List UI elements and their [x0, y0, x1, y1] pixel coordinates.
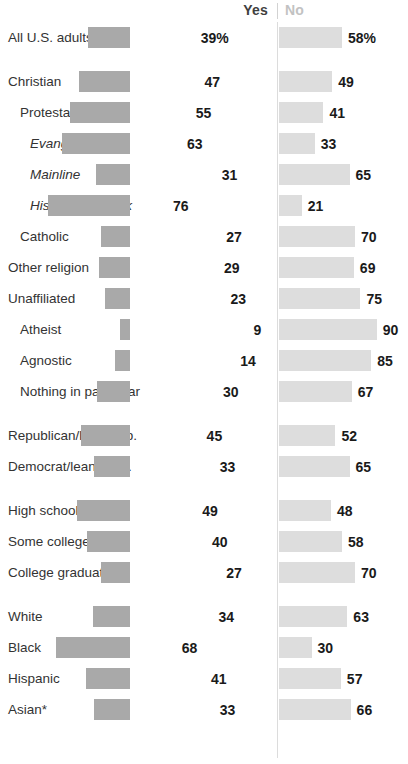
bar-no [279, 319, 377, 340]
row-label: Atheist [20, 323, 61, 337]
value-no: 90 [383, 323, 399, 337]
value-no: 48 [337, 504, 353, 518]
value-yes: 33 [220, 703, 236, 717]
table-row: Evangelical6333 [0, 133, 408, 154]
bar-no [279, 606, 347, 627]
row-label: Agnostic [20, 354, 72, 368]
chart-legend-header: Yes No [0, 0, 408, 22]
bar-yes [81, 425, 130, 446]
value-yes: 39% [201, 31, 229, 45]
bar-no [279, 195, 302, 216]
table-row: Protestant5541 [0, 102, 408, 123]
row-label: College graduate [8, 566, 111, 580]
table-row: Asian*3366 [0, 699, 408, 720]
bar-no [279, 425, 335, 446]
table-row: Christian4749 [0, 71, 408, 92]
legend-label-yes: Yes [243, 2, 268, 18]
row-label: Other religion [8, 261, 89, 275]
table-row: Atheist990 [0, 319, 408, 340]
table-row: College graduate2770 [0, 562, 408, 583]
value-yes: 55 [196, 106, 212, 120]
bar-yes [105, 288, 130, 309]
bar-yes [48, 195, 130, 216]
value-yes: 40 [212, 535, 228, 549]
value-no: 66 [357, 703, 373, 717]
value-no: 41 [329, 106, 345, 120]
value-no: 69 [360, 261, 376, 275]
bar-no [279, 531, 342, 552]
bar-yes [62, 133, 130, 154]
table-row: Agnostic1485 [0, 350, 408, 371]
bar-yes [96, 164, 130, 185]
legend-label-no: No [285, 2, 304, 18]
value-no: 58 [348, 535, 364, 549]
table-row: Republican/lean Rep.4552 [0, 425, 408, 446]
bar-no [279, 350, 371, 371]
bar-yes [86, 668, 130, 689]
bar-no [279, 257, 354, 278]
value-yes: 31 [222, 168, 238, 182]
value-no: 70 [361, 230, 377, 244]
row-label: Black [8, 641, 41, 655]
value-yes: 9 [253, 323, 261, 337]
value-yes: 14 [240, 354, 256, 368]
row-label: Hispanic [8, 672, 60, 686]
value-no: 30 [318, 641, 334, 655]
table-row: All U.S. adults39%58% [0, 27, 408, 48]
value-yes: 47 [204, 75, 220, 89]
table-row: Some college4058 [0, 531, 408, 552]
row-label: Christian [8, 75, 61, 89]
bar-yes [120, 319, 130, 340]
value-yes: 76 [173, 199, 189, 213]
bar-no [279, 102, 323, 123]
bar-no [279, 288, 360, 309]
row-label: Mainline [30, 168, 80, 182]
table-row: Hispanic4157 [0, 668, 408, 689]
bar-no [279, 456, 350, 477]
bar-yes [101, 562, 130, 583]
value-no: 21 [308, 199, 324, 213]
bar-no [279, 562, 355, 583]
value-yes: 45 [207, 429, 223, 443]
value-no: 52 [341, 429, 357, 443]
table-row: Other religion2969 [0, 257, 408, 278]
table-row: White3463 [0, 606, 408, 627]
table-row: Democrat/lean Dem.3365 [0, 456, 408, 477]
bar-yes [56, 637, 130, 658]
bar-yes [99, 257, 130, 278]
value-no: 33 [321, 137, 337, 151]
row-label: White [8, 610, 43, 624]
table-row: Black6830 [0, 637, 408, 658]
bar-no [279, 637, 312, 658]
bar-no [279, 164, 350, 185]
bar-yes [88, 27, 130, 48]
bar-no [279, 500, 331, 521]
bar-yes [87, 531, 130, 552]
value-yes: 41 [211, 672, 227, 686]
value-yes: 23 [230, 292, 246, 306]
bar-no [279, 668, 341, 689]
bar-yes [94, 699, 130, 720]
value-no: 57 [347, 672, 363, 686]
bar-no [279, 27, 342, 48]
value-yes: 27 [226, 566, 242, 580]
value-yes: 34 [219, 610, 235, 624]
value-no: 63 [353, 610, 369, 624]
bar-no [279, 699, 351, 720]
bar-no [279, 226, 355, 247]
value-no: 49 [338, 75, 354, 89]
value-yes: 29 [224, 261, 240, 275]
value-yes: 49 [202, 504, 218, 518]
value-no: 67 [358, 385, 374, 399]
table-row: Catholic2770 [0, 226, 408, 247]
bar-no [279, 381, 352, 402]
bar-yes [115, 350, 130, 371]
row-label: Catholic [20, 230, 69, 244]
value-yes: 33 [220, 460, 236, 474]
table-row: Historically Black7621 [0, 195, 408, 216]
table-row: Mainline3165 [0, 164, 408, 185]
table-row: High school or less4948 [0, 500, 408, 521]
value-no: 58% [348, 31, 376, 45]
value-yes: 27 [226, 230, 242, 244]
bar-no [279, 133, 315, 154]
